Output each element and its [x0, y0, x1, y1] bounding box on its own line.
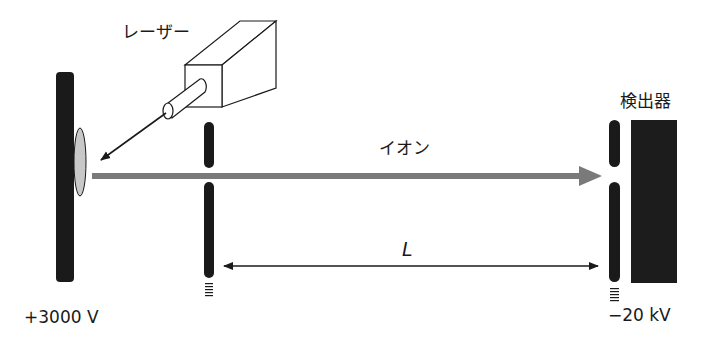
extraction-grid	[204, 122, 214, 296]
sample-plate	[56, 72, 74, 282]
flight-length-label: L	[402, 238, 413, 260]
detector-label: 検出器	[620, 87, 671, 112]
laser-label: レーザー	[122, 18, 190, 43]
sample-spot	[74, 128, 86, 196]
laser-beam-arrow	[101, 113, 166, 160]
ion-beam-arrow	[92, 166, 602, 186]
ion-label: イオン	[379, 134, 430, 159]
grid-voltage-label: −20 kV	[608, 305, 671, 325]
tof-diagram	[0, 0, 714, 352]
detector-grid	[609, 120, 620, 301]
sample-voltage-label: +3000 V	[24, 307, 99, 327]
detector	[631, 120, 677, 283]
